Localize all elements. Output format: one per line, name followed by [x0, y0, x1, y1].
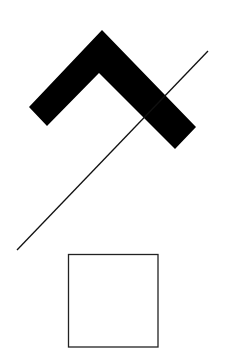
figure-canvas — [0, 0, 230, 363]
